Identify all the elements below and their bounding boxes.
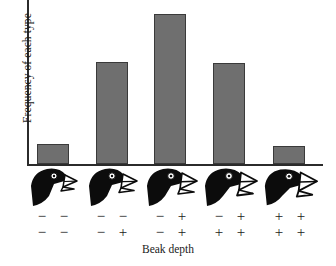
bar-2 [96, 62, 128, 165]
category-column-1: − − − − [24, 166, 82, 240]
genotype-allele-row-top: − + [142, 209, 200, 225]
genotype-allele-row-bottom: − + [83, 225, 141, 241]
genotype-allele-row-bottom: − + [142, 225, 200, 241]
genotype-allele-row-bottom: − − [24, 225, 82, 241]
beak-depth-frequency-figure: Frequency of each type − − − − [0, 0, 336, 266]
genotype-allele-row-bottom: + + [261, 225, 319, 241]
finch-head-icon [261, 166, 319, 208]
category-column-4: − + + + [201, 166, 259, 240]
genotype-label-2: − − − + [83, 209, 141, 240]
genotype-label-5: + + + + [261, 209, 319, 240]
genotype-allele-row-top: − − [83, 209, 141, 225]
bar-5 [273, 146, 305, 164]
finch-head-icon [24, 166, 82, 208]
finch-head-icon [83, 166, 141, 208]
finch-head-icon [201, 166, 259, 208]
category-column-5: + + + + [261, 166, 319, 240]
bar-1 [37, 144, 69, 165]
bar-3 [154, 14, 186, 164]
genotype-allele-row-top: + + [261, 209, 319, 225]
bar-4 [213, 63, 245, 164]
x-axis-title: Beak depth [0, 243, 336, 255]
genotype-allele-row-top: − + [201, 209, 259, 225]
finch-head-icon [142, 166, 200, 208]
genotype-allele-row-bottom: + + [201, 225, 259, 241]
genotype-label-1: − − − − [24, 209, 82, 240]
plot-area [29, 0, 323, 164]
genotype-label-3: − + − + [142, 209, 200, 240]
genotype-label-4: − + + + [201, 209, 259, 240]
genotype-allele-row-top: − − [24, 209, 82, 225]
category-column-2: − − − + [83, 166, 141, 240]
category-column-3: − + − + [142, 166, 200, 240]
